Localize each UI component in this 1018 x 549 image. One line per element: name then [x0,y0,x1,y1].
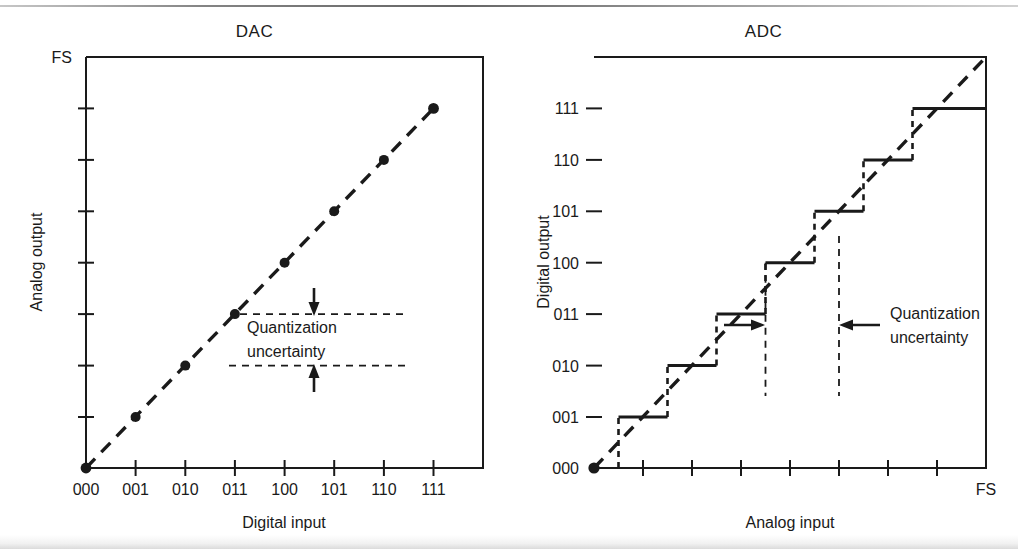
adc-y-axis-title: Digital output [535,215,552,309]
adc-ytick-label-2: 010 [552,358,579,375]
adc-ytick-label-0: 000 [552,460,579,477]
dac-quantization-annotation [229,288,405,392]
adc-staircase-treads [619,108,987,417]
dac-xtick-label-5: 101 [321,481,348,498]
adc-plot: Quantization uncertainty 000 001 010 011… [509,0,1018,549]
adc-ytick-label-6: 110 [553,152,579,169]
adc-ytick-label-3: 011 [553,306,579,323]
dac-y-fs-label: FS [52,49,72,66]
adc-y-ticks [586,108,602,417]
adc-x-axis-title: Analog input [746,514,836,531]
dac-xtick-label-1: 001 [122,481,149,498]
adc-arrow-left-head [839,320,853,331]
dac-panel: DAC [0,0,509,549]
dac-annotation-line2: uncertainty [247,343,325,360]
adc-ytick-label-7: 111 [555,100,579,117]
dac-y-axis-title: Analog output [28,212,45,311]
adc-staircase [588,108,986,473]
adc-ytick-label-1: 001 [552,409,579,426]
dac-annotation-line1: Quantization [247,319,337,336]
adc-panel: ADC [509,0,1018,549]
dac-xtick-label-7: 111 [421,481,445,498]
adc-annotation-line1: Quantization [890,305,980,322]
adc-ytick-label-4: 100 [552,255,579,272]
scan-artifact-bottom [0,535,1018,549]
dac-xtick-label-4: 100 [271,481,298,498]
dac-xtick-label-3: 011 [222,481,248,498]
adc-arrow-right-head [751,320,765,331]
dac-xtick-label-6: 110 [371,481,397,498]
dac-x-axis-title: Digital input [242,514,326,531]
adc-staircase-risers [619,108,913,468]
dac-plot: Quantization uncertainty FS 000 001 010 … [0,0,509,549]
adc-quantization-annotation [724,236,880,396]
adc-origin-point [588,462,599,473]
adc-x-fs-label: FS [976,481,996,498]
adc-annotation-line2: uncertainty [890,329,968,346]
adc-ytick-label-5: 101 [552,203,579,220]
dac-xtick-label-2: 010 [172,481,199,498]
dac-xtick-label-0: 000 [73,481,100,498]
